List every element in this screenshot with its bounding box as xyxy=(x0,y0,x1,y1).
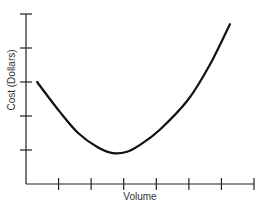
chart-canvas xyxy=(0,0,265,209)
cost-curve xyxy=(37,24,230,153)
y-axis-label: Cost (Dollars) xyxy=(6,49,17,110)
x-axis-label: Volume xyxy=(123,191,156,202)
axes xyxy=(20,14,254,190)
